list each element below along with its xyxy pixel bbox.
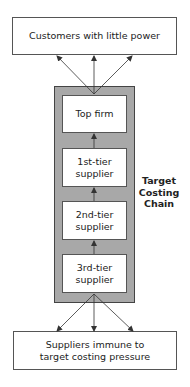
arrow-down-right [94, 294, 133, 331]
arrow-up-left [57, 56, 94, 94]
arrow-down-left [57, 294, 94, 331]
arrow-up-right [94, 56, 132, 94]
arrows [0, 0, 190, 387]
